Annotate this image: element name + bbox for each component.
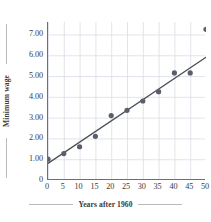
- data-point: [172, 70, 177, 75]
- y-axis-tick-label: 6.00: [0, 51, 46, 59]
- data-point: [48, 157, 51, 162]
- chart-container: Minimum wage 01.002.003.004.005.006.007.…: [0, 0, 211, 222]
- y-axis-tick-label: 1.00: [0, 155, 46, 163]
- data-point: [109, 113, 114, 118]
- data-point: [93, 134, 98, 139]
- data-point: [61, 151, 66, 156]
- y-axis-tick-label: 3.00: [0, 114, 46, 122]
- chart-series: [48, 22, 206, 180]
- x-axis-title-rule-right: [138, 204, 182, 205]
- data-point: [188, 70, 193, 75]
- y-axis-tick-label: 4.00: [0, 93, 46, 101]
- y-axis-tick-label: 5.00: [0, 72, 46, 80]
- x-axis-title-group: Years after 1960: [0, 196, 211, 212]
- data-point: [203, 27, 206, 32]
- data-point: [156, 89, 161, 94]
- x-axis-title-rule-left: [29, 204, 73, 205]
- plot-area: [47, 22, 205, 180]
- data-point: [124, 108, 129, 113]
- data-point: [77, 144, 82, 149]
- data-point: [140, 98, 145, 103]
- y-axis-tick-label: 7.00: [0, 30, 46, 38]
- x-axis-tick-label: 50: [193, 182, 211, 191]
- y-axis-tick-label: 2.00: [0, 134, 46, 142]
- x-axis-title: Years after 1960: [73, 200, 137, 209]
